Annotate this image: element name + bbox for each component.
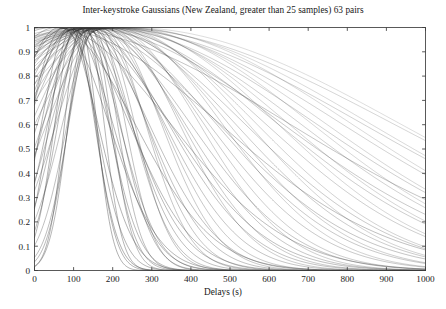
x-tick-label: 200 (106, 274, 120, 284)
y-tick-label: 1 (25, 23, 30, 33)
y-tick-label: 0.5 (19, 144, 31, 154)
plot-canvas: 0100200300400500600700800900100000.10.20… (0, 0, 446, 309)
gaussian-curve (35, 28, 426, 257)
y-tick-label: 0.3 (19, 193, 31, 203)
y-tick-label: 0.7 (19, 96, 31, 106)
x-tick-label: 600 (262, 274, 276, 284)
y-tick-label: 0.8 (19, 71, 31, 81)
x-tick-label: 0 (32, 274, 37, 284)
x-tick-label: 700 (301, 274, 315, 284)
y-tick-label: 0.2 (19, 217, 31, 227)
x-tick-label: 800 (340, 274, 354, 284)
y-tick-label: 0.4 (19, 169, 31, 179)
y-tick-label: 0.9 (19, 47, 31, 57)
y-tick-label: 0.6 (19, 120, 31, 130)
x-tick-label: 500 (223, 274, 237, 284)
gaussian-curve (35, 28, 426, 190)
chart-figure: Inter-keystroke Gaussians (New Zealand, … (0, 0, 446, 309)
y-tick-label: 0.1 (19, 242, 31, 252)
gaussian-curves-layer (35, 28, 426, 271)
x-tick-label: 900 (380, 274, 394, 284)
x-axis-label: Delays (s) (0, 287, 446, 297)
x-tick-label: 300 (145, 274, 159, 284)
x-tick-label: 1000 (416, 274, 435, 284)
gaussian-curve (35, 28, 426, 175)
gaussian-curve (35, 28, 426, 256)
y-tick-label: 0 (25, 266, 30, 276)
x-tick-label: 400 (184, 274, 198, 284)
gaussian-curve (35, 28, 426, 259)
x-tick-label: 100 (67, 274, 81, 284)
gaussian-curve (35, 28, 426, 263)
gaussian-curve (35, 28, 426, 221)
